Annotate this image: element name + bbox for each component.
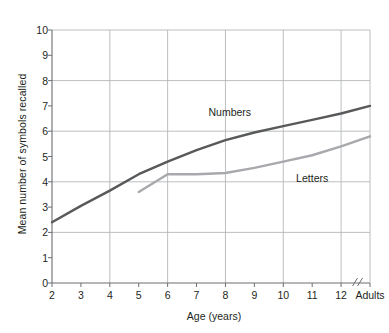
series-label-letters: Letters bbox=[296, 172, 328, 184]
x-axis-title-text: Age (years) bbox=[187, 310, 241, 322]
axis-break-icon bbox=[353, 278, 363, 286]
x-axis-tick-labels: 23456789101112Adults bbox=[0, 289, 384, 309]
gridlines bbox=[52, 30, 370, 283]
series-label-numbers: Numbers bbox=[208, 106, 251, 118]
axis-tick-marks bbox=[48, 30, 370, 287]
x-tick-label: Adults bbox=[350, 289, 389, 301]
axis-lines bbox=[52, 30, 370, 283]
x-axis-title: Age (years) bbox=[0, 310, 384, 322]
data-series bbox=[52, 106, 370, 222]
